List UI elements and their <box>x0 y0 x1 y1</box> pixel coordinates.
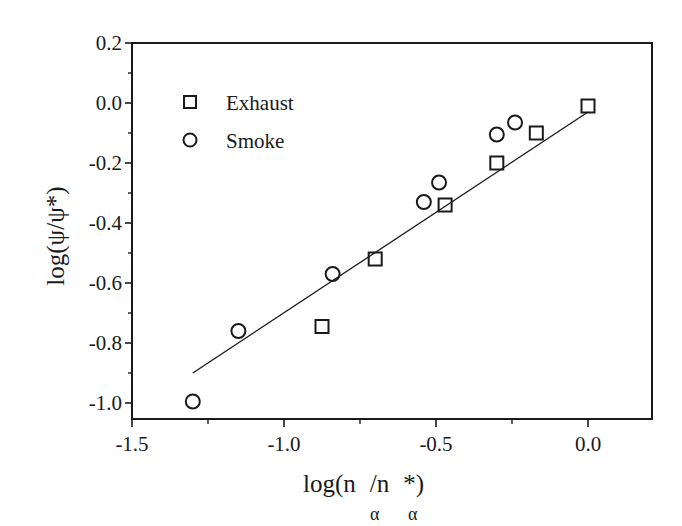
smoke-point <box>490 128 504 142</box>
x-title-end: *) <box>403 470 424 498</box>
scatter-chart: -1.5-1.0-0.50.0 0.20.0-0.2-0.4-0.6-0.8-1… <box>0 0 682 526</box>
y-tick-label: -0.8 <box>89 331 122 355</box>
x-tick-label: -1.5 <box>115 432 148 456</box>
y-tick-label: -0.4 <box>89 211 123 235</box>
svg-text:log(n/n*): log(n/n*) <box>303 470 424 498</box>
smoke-point <box>231 324 245 338</box>
smoke-point <box>417 195 431 209</box>
exhaust-point <box>582 100 595 113</box>
legend-item-smoke: Smoke <box>184 129 285 153</box>
x-title-main: log(n <box>303 470 356 498</box>
x-tick-label: 0.0 <box>575 432 601 456</box>
x-title-subscript-1: α <box>370 504 380 524</box>
exhaust-point <box>490 157 503 170</box>
square-icon <box>184 96 196 108</box>
x-title-mid: /n <box>370 470 390 497</box>
y-axis-title: log(ψ/ψ*) <box>42 186 70 285</box>
circle-icon <box>184 134 197 147</box>
smoke-point <box>432 176 446 190</box>
y-tick-label: 0.0 <box>96 91 122 115</box>
y-axis-ticks: 0.20.0-0.2-0.4-0.6-0.8-1.0 <box>89 31 132 415</box>
y-tick-label: 0.2 <box>96 31 122 55</box>
legend-label-smoke: Smoke <box>226 129 284 153</box>
plot-border <box>132 43 652 419</box>
y-tick-label: -0.6 <box>89 271 122 295</box>
smoke-point <box>326 267 340 281</box>
x-axis-title: log(n/n*) α α <box>303 470 424 524</box>
x-title-subscript-2: α <box>408 504 418 524</box>
x-tick-label: -1.0 <box>267 432 300 456</box>
legend-label-exhaust: Exhaust <box>226 91 294 115</box>
exhaust-point <box>316 320 329 333</box>
exhaust-point <box>369 253 382 266</box>
x-axis-ticks: -1.5-1.0-0.50.0 <box>115 419 601 456</box>
legend: Exhaust Smoke <box>184 91 294 153</box>
smoke-point <box>508 116 522 130</box>
y-tick-label: -0.2 <box>89 151 122 175</box>
x-tick-label: -0.5 <box>419 432 452 456</box>
legend-item-exhaust: Exhaust <box>184 91 294 115</box>
plot-frame <box>132 43 652 419</box>
y-tick-label: -1.0 <box>89 391 122 415</box>
exhaust-point <box>530 127 543 140</box>
smoke-point <box>186 395 200 409</box>
